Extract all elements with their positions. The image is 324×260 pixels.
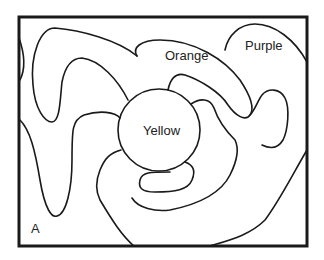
- region-purple-inner: [250, 90, 288, 147]
- map-diagram: Yellow Orange Purple A: [0, 0, 324, 260]
- label-yellow: Yellow: [143, 123, 181, 138]
- region-bottom-right: [210, 150, 307, 246]
- label-a: A: [31, 221, 40, 236]
- region-right-middle: [132, 100, 237, 211]
- region-lower-left-curve: [20, 112, 120, 216]
- region-lower-middle: [97, 150, 134, 246]
- region-left-tentacle: [32, 28, 137, 122]
- label-purple: Purple: [245, 38, 283, 53]
- region-inner-hook: [140, 162, 194, 192]
- label-orange: Orange: [165, 48, 208, 63]
